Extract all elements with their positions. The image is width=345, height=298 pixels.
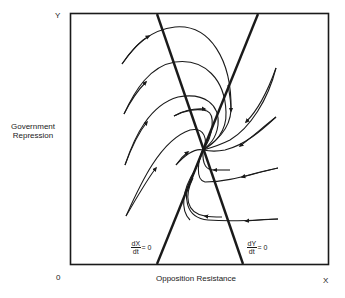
trajectory-10	[187, 150, 278, 221]
trajectories	[122, 27, 278, 221]
y-axis-title-line1: Government	[2, 122, 64, 131]
dX-denominator: dt	[133, 248, 139, 255]
nullcline-dX-dt	[157, 14, 258, 264]
phase-diagram: Y X 0 Government Repression Opposition R…	[0, 0, 345, 298]
dY-denominator: dt	[249, 248, 255, 255]
y-axis-title-line2: Repression	[2, 131, 64, 140]
phase-plot-svg	[0, 0, 345, 298]
dX-dt-nullcline-label: dX dt = 0	[131, 240, 152, 255]
dX-numerator: dX	[131, 240, 141, 248]
nullcline-dY-dt	[157, 14, 243, 264]
trajectory-2	[124, 62, 226, 150]
y-axis-title: Government Repression	[2, 122, 64, 140]
y-axis-label: Y	[55, 11, 60, 20]
dX-equals: = 0	[142, 244, 152, 251]
x-axis-label: X	[323, 276, 328, 285]
dY-dt-nullcline-label: dY dt = 0	[247, 240, 268, 255]
origin-label: 0	[56, 273, 60, 282]
dY-equals: = 0	[258, 244, 268, 251]
dY-numerator: dY	[247, 240, 257, 248]
x-axis-title: Opposition Resistance	[146, 274, 246, 283]
